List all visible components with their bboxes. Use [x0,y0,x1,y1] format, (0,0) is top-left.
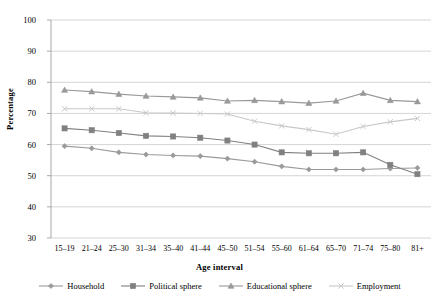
x-tick-label: 15–19 [55,244,75,253]
data-point [225,156,230,161]
data-point [171,134,176,139]
x-axis-tick-labels: 15–1921–2425–3031–3435–4041–4445–5051–54… [0,244,439,258]
legend-label: Household [67,281,104,291]
y-axis-tick-labels: 10090807060504030 [6,0,36,307]
data-point [89,146,94,151]
x-tick-label: 65–70 [326,244,346,253]
x-tick-label: 61–64 [299,244,319,253]
y-tick-label: 70 [10,109,36,118]
x-tick-label: 21–24 [82,244,102,253]
legend-marker-square-icon [120,281,146,291]
y-tick-label: 30 [10,234,36,243]
data-point [143,133,148,138]
x-tick-label: 31–34 [136,244,156,253]
legend-marker-x-icon [328,281,354,291]
data-point [198,153,203,158]
data-point [62,126,67,131]
data-point [415,165,420,170]
data-point [306,167,311,172]
x-tick-label: 35–40 [163,244,183,253]
x-tick-label: 41–44 [190,244,210,253]
data-point [116,150,121,155]
y-tick-label: 50 [10,171,36,180]
legend-item-political-sphere[interactable]: Political sphere [120,281,202,291]
plot-area [0,0,439,307]
data-point [388,162,393,167]
x-tick-label: 71–74 [353,244,373,253]
data-point [143,152,148,157]
x-tick-label: 75–80 [380,244,400,253]
y-tick-label: 90 [10,47,36,56]
data-point [306,151,311,156]
legend-label: Political sphere [149,281,202,291]
y-tick-label: 60 [10,140,36,149]
data-point [361,150,366,155]
data-point [415,172,420,177]
series-educational-sphere [62,87,421,105]
x-axis-title: Age interval [0,262,439,272]
legend-label: Employment [357,281,401,291]
data-point [225,138,230,143]
legend-label: Educational sphere [247,281,312,291]
x-tick-label: 25–30 [109,244,129,253]
series-household [62,144,420,173]
legend-marker-diamond-icon [38,281,64,291]
data-point [279,164,284,169]
y-tick-label: 40 [10,202,36,211]
line-chart: Percentage 10090807060504030 15–1921–242… [0,0,439,307]
x-tick-label: 81+ [411,244,424,253]
data-point [333,167,338,172]
legend-item-household[interactable]: Household [38,281,104,291]
data-point [361,167,366,172]
data-point [89,128,94,133]
y-tick-label: 100 [10,16,36,25]
data-point [252,142,257,147]
legend-item-employment[interactable]: Employment [328,281,401,291]
x-tick-label: 45–50 [217,244,237,253]
data-point [333,151,338,156]
x-tick-label: 55–60 [272,244,292,253]
data-point [171,153,176,158]
data-point [198,135,203,140]
x-tick-label: 51–54 [245,244,265,253]
y-tick-label: 80 [10,78,36,87]
legend-marker-triangle-icon [218,281,244,291]
data-point [360,90,366,95]
legend-item-educational-sphere[interactable]: Educational sphere [218,281,312,291]
data-point [279,150,284,155]
data-point [252,159,257,164]
gridlines [51,20,431,238]
chart-legend: HouseholdPolitical sphereEducational sph… [0,281,439,291]
data-point [116,130,121,135]
